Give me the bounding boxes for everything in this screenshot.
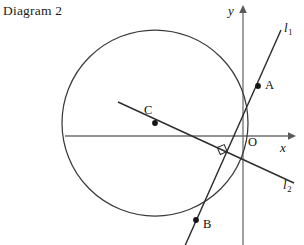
point-label-B: B: [203, 218, 211, 231]
line-l1: [184, 30, 281, 245]
point-C: [152, 120, 158, 126]
point-label-C: C: [144, 104, 152, 117]
line-label-l2: l2: [283, 178, 291, 191]
point-A: [255, 83, 261, 89]
origin-label: O: [248, 136, 257, 149]
y-axis: [239, 5, 247, 245]
point-label-A: A: [265, 79, 274, 92]
y-axis-label: y: [228, 4, 234, 17]
line-label-l1: l1: [284, 21, 292, 34]
figure-caption: Diagram 2: [3, 3, 62, 19]
x-axis-label: x: [280, 141, 286, 154]
x-axis: [65, 132, 296, 140]
line-label-l1-subscript: 1: [288, 27, 292, 37]
clipped-footer-text: [2, 237, 5, 245]
point-B: [193, 217, 199, 223]
diagram-figure: Diagram 2 y x O A B C l1 l2: [0, 0, 304, 245]
line-label-l2-subscript: 2: [287, 184, 291, 194]
diagram-canvas: [0, 0, 304, 245]
